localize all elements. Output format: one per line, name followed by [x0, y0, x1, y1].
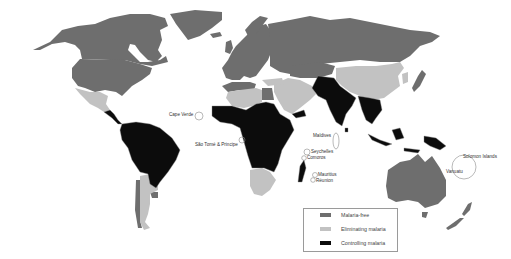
- madagascar: [298, 160, 306, 182]
- new-zealand: [446, 202, 472, 230]
- cape-verde-circle: [195, 112, 203, 120]
- map-canvas: [0, 0, 511, 259]
- japan: [412, 70, 426, 92]
- callout-vanuatu: Vanuatu: [446, 170, 463, 175]
- iceland: [210, 32, 222, 38]
- legend-label-controlling: Controlling malaria: [341, 240, 385, 246]
- callout-reunion: Réunion: [316, 179, 333, 184]
- callout-seychelles: Seychelles: [311, 150, 333, 155]
- russia: [268, 16, 440, 74]
- map-legend: Malaria-free Eliminating malaria Control…: [303, 208, 398, 252]
- comoros-circle: [302, 156, 307, 161]
- sri-lanka: [345, 128, 348, 132]
- indonesia: [368, 128, 420, 153]
- legend-item-eliminating: Eliminating malaria: [304, 224, 397, 234]
- callout-solomon-islands: Solomon Islands: [463, 155, 497, 160]
- legend-label-eliminating: Eliminating malaria: [341, 226, 386, 232]
- papua-new-guinea: [424, 136, 446, 150]
- sub-saharan-africa: [212, 102, 294, 172]
- central-america: [104, 110, 122, 124]
- reunion-circle: [311, 178, 316, 183]
- legend-item-controlling: Controlling malaria: [304, 238, 397, 248]
- callout-maldives: Maldives: [313, 134, 331, 139]
- south-america-north: [120, 122, 180, 188]
- callout-cape-verde: Cape Verde: [169, 113, 193, 118]
- mauritius-circle: [313, 173, 318, 178]
- callout-mauritius: Mauritius: [318, 173, 337, 178]
- world-malaria-map: Cape Verde São Tomé & Principe Maldives …: [0, 0, 511, 259]
- southern-africa: [250, 168, 276, 196]
- legend-swatch-malaria-free: [320, 213, 331, 217]
- australia: [386, 154, 446, 208]
- callout-comoros: Comoros: [307, 156, 326, 161]
- egypt: [262, 88, 274, 100]
- tasmania: [422, 212, 428, 218]
- korea: [402, 72, 408, 84]
- uk: [225, 40, 233, 54]
- callout-sao-tome: São Tomé & Principe: [195, 143, 238, 148]
- southeast-asia: [358, 96, 382, 124]
- legend-swatch-controlling: [320, 241, 331, 245]
- canada-alaska: [33, 14, 168, 66]
- legend-label-malaria-free: Malaria-free: [341, 212, 369, 218]
- legend-item-malaria-free: Malaria-free: [304, 210, 397, 220]
- maldives-circle: [333, 133, 339, 149]
- legend-swatch-eliminating: [320, 227, 331, 231]
- mexico: [75, 88, 110, 112]
